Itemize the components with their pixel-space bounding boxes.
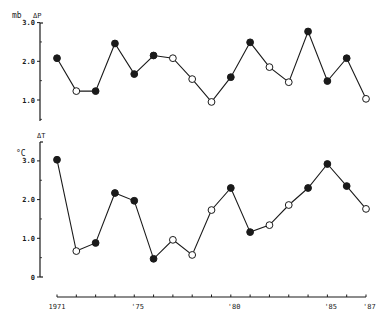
pressure-y-axis: 1.02.03.0 — [22, 19, 43, 121]
data-point-filled — [324, 161, 331, 168]
chart-canvas: mb ΔP 1.02.03.0 ΔT °C 01.02.03.0 1971'75… — [0, 0, 383, 321]
temperature-panel: ΔT °C 01.02.03.0 — [16, 132, 369, 282]
data-point-open — [266, 222, 273, 229]
data-point-filled — [305, 28, 312, 35]
y-tick-label: 1.0 — [22, 97, 35, 105]
data-point-filled — [343, 55, 350, 62]
data-point-open — [169, 236, 176, 243]
data-point-filled — [54, 156, 61, 163]
pressure-series — [54, 28, 370, 105]
x-tick-label: '80 — [228, 303, 241, 311]
data-point-filled — [150, 52, 157, 59]
data-point-filled — [150, 255, 157, 262]
temperature-series — [54, 156, 370, 262]
data-point-open — [285, 202, 292, 209]
data-point-open — [266, 64, 273, 71]
y-tick-label: 0 — [31, 274, 35, 282]
pressure-unit-label: mb — [12, 11, 22, 20]
pressure-panel: mb ΔP 1.02.03.0 — [12, 11, 369, 121]
data-point-open — [189, 76, 196, 83]
temperature-variable-label: ΔT — [37, 132, 46, 140]
data-point-filled — [131, 197, 138, 204]
data-point-open — [208, 99, 215, 106]
x-tick-label: '87 — [363, 303, 376, 311]
data-point-open — [285, 79, 292, 86]
y-tick-label: 3.0 — [22, 157, 35, 165]
y-tick-label: 1.0 — [22, 235, 35, 243]
data-point-filled — [112, 190, 119, 197]
climate-anomaly-chart: mb ΔP 1.02.03.0 ΔT °C 01.02.03.0 1971'75… — [0, 0, 383, 321]
data-point-filled — [92, 240, 99, 247]
data-point-open — [73, 88, 80, 95]
data-point-filled — [247, 229, 254, 236]
data-point-filled — [54, 55, 61, 62]
data-point-open — [363, 95, 370, 102]
data-point-filled — [305, 185, 312, 192]
data-point-filled — [343, 183, 350, 190]
y-tick-label: 2.0 — [22, 196, 35, 204]
data-point-open — [169, 55, 176, 62]
data-point-open — [189, 252, 196, 259]
series-line — [57, 32, 366, 102]
data-point-open — [208, 207, 215, 214]
year-x-axis: 1971'75'80'85'87 — [49, 295, 376, 312]
y-tick-label: 2.0 — [22, 58, 35, 66]
data-point-filled — [131, 71, 138, 78]
data-point-filled — [227, 185, 234, 192]
data-point-filled — [112, 40, 119, 47]
data-point-filled — [247, 39, 254, 46]
y-tick-label: 3.0 — [22, 19, 35, 27]
data-point-open — [363, 205, 370, 212]
data-point-open — [73, 248, 80, 255]
x-tick-label: '75 — [131, 303, 144, 311]
data-point-filled — [324, 78, 331, 85]
data-point-filled — [92, 88, 99, 95]
x-tick-label: '85 — [324, 303, 337, 311]
x-tick-label: 1971 — [49, 303, 66, 311]
data-point-filled — [227, 74, 234, 81]
temperature-y-axis: 01.02.03.0 — [22, 142, 43, 282]
